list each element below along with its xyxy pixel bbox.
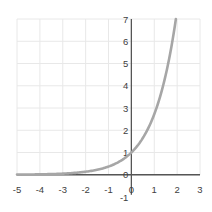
x-tick-label: -5	[13, 184, 21, 195]
x-tick-label: 3	[197, 184, 202, 195]
y-tick-label: 5	[123, 58, 128, 69]
x-tick-label: -4	[36, 184, 44, 195]
y-tick-label: 6	[123, 36, 128, 47]
x-tick-label: 0	[129, 184, 134, 195]
exponential-chart: -5-4-3-2-10123-101234567	[0, 0, 212, 212]
y-tick-label: 3	[123, 103, 128, 114]
y-tick-label: 0	[123, 169, 128, 180]
y-tick-label: 2	[123, 125, 128, 136]
exponential-curve	[17, 19, 176, 175]
y-tick-label: -1	[120, 192, 128, 203]
y-tick-label: 7	[123, 14, 128, 25]
x-tick-label: -3	[59, 184, 67, 195]
x-tick-label: 2	[174, 184, 179, 195]
x-tick-label: 1	[152, 184, 157, 195]
x-tick-label: -1	[104, 184, 112, 195]
y-tick-label: 4	[123, 80, 128, 91]
x-tick-label: -2	[81, 184, 89, 195]
